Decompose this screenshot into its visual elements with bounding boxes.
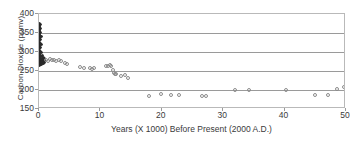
x-axis-tick-mark <box>222 108 223 111</box>
x-axis-tick-mark <box>345 108 346 111</box>
data-point <box>147 94 151 98</box>
data-point <box>65 62 69 66</box>
data-point <box>39 31 42 34</box>
x-axis-tick-mark <box>284 108 285 111</box>
y-axis-tick-label: 300 <box>0 47 34 55</box>
y-axis-tick-label: 350 <box>0 28 34 36</box>
data-point <box>177 93 181 97</box>
plot-area <box>38 13 345 108</box>
x-axis-tick-mark <box>161 108 162 111</box>
x-axis-tick-label: 10 <box>84 111 114 120</box>
data-point <box>39 23 42 26</box>
data-point <box>126 76 130 80</box>
data-point <box>39 27 42 30</box>
data-point <box>247 88 251 92</box>
data-point <box>40 43 43 46</box>
y-axis-title: Carbon Dioxide (ppmv) <box>14 4 28 112</box>
y-axis-tick-label: 200 <box>0 85 34 93</box>
data-point <box>82 66 86 70</box>
x-axis-tick-label: 20 <box>146 111 176 120</box>
data-point <box>169 93 173 97</box>
x-axis-tick-label: 30 <box>207 111 237 120</box>
data-point <box>92 66 96 70</box>
data-point <box>342 85 344 89</box>
y-axis-tick-label: 400 <box>0 9 34 17</box>
data-point <box>40 51 43 54</box>
x-axis-tick-mark <box>38 108 39 111</box>
data-point <box>78 65 82 69</box>
data-point <box>39 46 42 49</box>
data-point <box>109 64 113 68</box>
x-axis-tick-label: 50 <box>330 111 355 120</box>
x-axis-tick-label: 40 <box>269 111 299 120</box>
x-axis-tick-mark <box>99 108 100 111</box>
data-point <box>159 92 163 96</box>
x-axis-tick-label: 0 <box>23 111 53 120</box>
plot-inner <box>39 14 344 107</box>
data-point <box>313 93 317 97</box>
data-point <box>204 94 208 98</box>
data-point <box>233 88 237 92</box>
x-axis-title: Years (X 1000) Before Present (2000 A.D.… <box>38 124 345 135</box>
data-point <box>39 38 42 41</box>
gridline <box>39 90 344 91</box>
gridline <box>39 71 344 72</box>
data-point <box>40 35 43 38</box>
gridline <box>39 52 344 53</box>
gridline <box>39 33 344 34</box>
y-axis-tick-label: 250 <box>0 66 34 74</box>
data-point <box>326 93 330 97</box>
data-point <box>284 88 288 92</box>
data-point <box>114 72 118 76</box>
co2-scatter-chart: Carbon Dioxide (ppmv) 150200250300350400… <box>0 0 355 145</box>
